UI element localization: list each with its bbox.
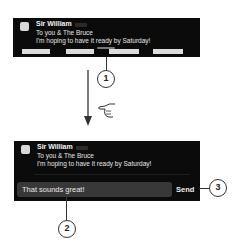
notification-banner-expanded: Sir William To you & The Bruce I'm hopin… bbox=[14, 141, 200, 201]
message-preview: I'm hoping to have it ready by Saturday! bbox=[36, 37, 150, 44]
background-content bbox=[153, 49, 183, 54]
sender-name: Sir William bbox=[37, 143, 73, 150]
hand-pointing-icon bbox=[97, 100, 117, 120]
recipients-line: To you & The Bruce bbox=[37, 152, 94, 159]
divider bbox=[34, 174, 190, 175]
callout-1: 1 bbox=[97, 70, 115, 88]
recipients-line: To you & The Bruce bbox=[36, 29, 93, 36]
callout-3: 3 bbox=[209, 179, 227, 197]
messages-app-icon bbox=[21, 145, 30, 154]
swipe-down-arrow-icon bbox=[82, 68, 94, 128]
drag-handle[interactable] bbox=[97, 47, 115, 49]
notification-banner-collapsed[interactable]: Sir William To you & The Bruce I'm hopin… bbox=[13, 18, 200, 57]
timestamp bbox=[76, 146, 88, 150]
sender-name: Sir William bbox=[36, 20, 72, 27]
background-content bbox=[109, 49, 139, 54]
callout-2: 2 bbox=[58, 220, 76, 238]
callout-2-leader bbox=[66, 197, 67, 221]
reply-input[interactable] bbox=[17, 182, 172, 197]
timestamp bbox=[75, 23, 87, 27]
background-content bbox=[66, 49, 94, 54]
messages-app-icon bbox=[20, 22, 29, 31]
callout-1-leader bbox=[106, 57, 107, 71]
send-button[interactable]: Send bbox=[176, 182, 194, 197]
message-preview: I'm hoping to have it ready by Saturday! bbox=[37, 160, 151, 167]
background-content bbox=[22, 49, 50, 54]
